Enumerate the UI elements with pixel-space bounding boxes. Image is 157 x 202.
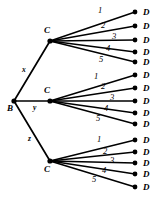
trunk-edge-label-y: y xyxy=(32,103,37,112)
fan-edge-2-1 xyxy=(50,75,135,101)
fan-edge-2-2 xyxy=(50,88,135,101)
labels-group: x1D2D3D4D5DCy1D2D3D4D5DCz1D2D3D4D5DCB xyxy=(6,5,150,192)
trunk-edges-group xyxy=(14,41,50,161)
root-node-label-B: B xyxy=(6,103,13,113)
fan-edge-label-1-4: 4 xyxy=(106,43,111,53)
leaf-node-label-2-2: D xyxy=(142,83,150,93)
leaf-node-1-3 xyxy=(133,38,138,43)
leaf-node-3-4 xyxy=(133,172,138,177)
fan-edge-label-3-5: 5 xyxy=(92,174,96,184)
fan-edge-3-1 xyxy=(50,140,135,161)
leaf-node-label-1-4: D xyxy=(142,47,150,57)
leaf-node-label-2-4: D xyxy=(142,108,150,118)
fan-edge-1-3 xyxy=(50,40,135,41)
fan-edge-2-4 xyxy=(50,101,135,113)
trunk-edge-z xyxy=(14,101,50,161)
leaf-node-1-2 xyxy=(133,24,138,29)
fan-edge-label-2-3: 3 xyxy=(109,92,114,102)
leaf-node-2-3 xyxy=(133,99,138,104)
fan-edge-label-2-1: 1 xyxy=(94,71,98,81)
decision-node-C3 xyxy=(47,158,52,163)
leaf-node-label-2-5: D xyxy=(142,119,150,129)
decision-node-label-C1: C xyxy=(44,25,51,35)
leaf-node-3-3 xyxy=(133,161,138,166)
fan-edge-label-1-3: 3 xyxy=(111,31,116,41)
decision-node-C2 xyxy=(47,98,52,103)
fan-edge-2-5 xyxy=(50,101,135,124)
leaf-node-label-3-2: D xyxy=(142,147,150,157)
leaf-node-label-1-3: D xyxy=(142,35,150,45)
fan-edge-1-4 xyxy=(50,41,135,52)
leaf-node-label-3-5: D xyxy=(142,182,150,192)
leaf-node-3-5 xyxy=(133,185,138,190)
tree-diagram: x1D2D3D4D5DCy1D2D3D4D5DCz1D2D3D4D5DCB xyxy=(0,0,157,202)
tree-diagram-canvas: x1D2D3D4D5DCy1D2D3D4D5DCz1D2D3D4D5DCB xyxy=(0,0,157,202)
fan-edge-label-2-5: 5 xyxy=(96,113,100,123)
leaf-node-label-2-3: D xyxy=(142,96,150,106)
fan-edge-label-1-1: 1 xyxy=(98,5,102,15)
leaf-node-2-1 xyxy=(133,73,138,78)
leaf-node-2-5 xyxy=(133,122,138,127)
leaf-node-label-1-5: D xyxy=(142,57,150,67)
fan-edge-label-2-2: 2 xyxy=(101,81,106,91)
fan-edge-label-3-3: 3 xyxy=(109,155,114,165)
decision-node-label-C3: C xyxy=(44,164,51,174)
fan-edge-1-5 xyxy=(50,41,135,62)
leaf-node-label-3-3: D xyxy=(142,158,150,168)
leaf-node-label-1-1: D xyxy=(142,7,150,17)
decision-node-C1 xyxy=(47,38,52,43)
fan-edge-label-3-1: 1 xyxy=(97,134,101,144)
leaf-node-1-1 xyxy=(133,10,138,15)
fan-edge-label-1-5: 5 xyxy=(99,54,103,64)
leaf-node-1-5 xyxy=(133,60,138,65)
leaf-node-3-1 xyxy=(133,138,138,143)
fan-edge-1-2 xyxy=(50,26,135,41)
fan-edge-label-2-4: 4 xyxy=(104,103,109,113)
trunk-edge-label-z: z xyxy=(27,134,31,143)
leaf-node-2-4 xyxy=(133,111,138,116)
fan-edge-1-1 xyxy=(50,12,135,41)
fan-edges-group xyxy=(50,12,135,187)
leaf-node-2-2 xyxy=(133,86,138,91)
leaf-node-label-3-1: D xyxy=(142,135,150,145)
decision-node-label-C2: C xyxy=(44,85,51,95)
trunk-edge-label-x: x xyxy=(21,65,26,74)
leaf-node-label-1-2: D xyxy=(142,21,150,31)
leaf-node-3-2 xyxy=(133,150,138,155)
leaf-node-1-4 xyxy=(133,50,138,55)
fan-edge-3-2 xyxy=(50,152,135,161)
leaf-node-label-3-4: D xyxy=(142,169,150,179)
leaf-node-label-2-1: D xyxy=(142,70,150,80)
